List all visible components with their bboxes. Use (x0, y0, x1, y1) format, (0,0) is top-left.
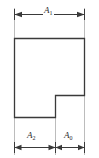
dimension-a2 (15, 142, 56, 153)
figure-canvas (0, 0, 99, 158)
dimension-label-a0-subscript: 0 (70, 135, 73, 141)
dimension-a2-arrow-left (15, 145, 22, 150)
dimension-a1-arrow-right (77, 12, 85, 17)
dimension-a0-arrow-right (78, 145, 85, 150)
engineering-figure: A1 A2 A0 (0, 0, 99, 158)
dimension-label-a0: A0 (63, 131, 74, 140)
notched-rectangle-outline (15, 39, 85, 118)
dimension-label-a1-base: A (44, 5, 50, 15)
dimension-label-a2: A2 (26, 131, 37, 140)
dimension-label-a2-subscript: 2 (33, 135, 36, 141)
dimension-label-a1-subscript: 1 (50, 10, 53, 16)
dimension-label-a1: A1 (43, 6, 54, 15)
dimension-a0-arrow-left (56, 145, 63, 150)
dimension-label-a2-base: A (27, 130, 33, 140)
dimension-a0 (56, 142, 85, 153)
dimension-label-a0-base: A (64, 130, 70, 140)
dimension-a2-arrow-right (49, 145, 56, 150)
shape-boundary (15, 39, 85, 118)
dimension-a1-arrow-left (15, 12, 23, 17)
